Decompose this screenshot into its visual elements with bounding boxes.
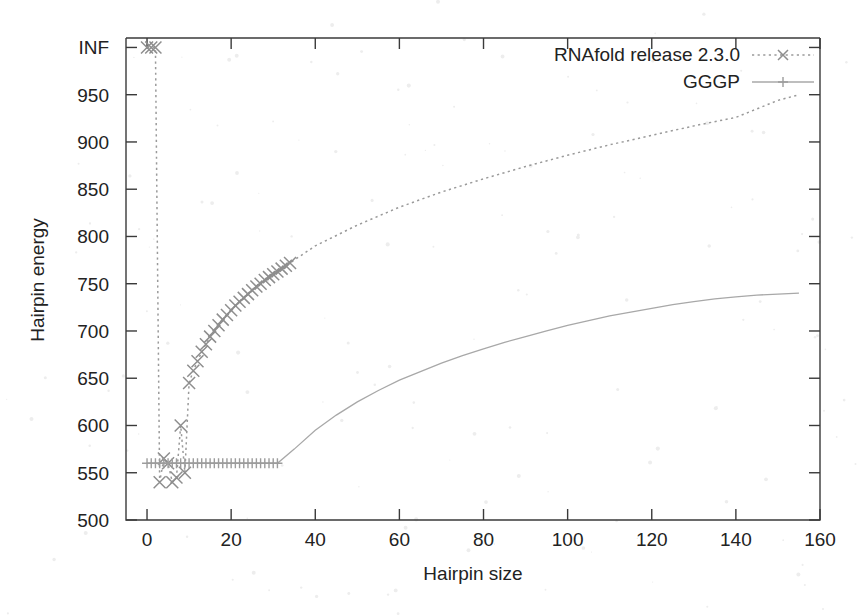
scan-speckle [387,593,389,595]
scan-speckle [44,376,47,379]
y-tick-label: 700 [77,321,109,342]
scan-speckle [843,399,846,402]
scan-speckle [442,165,444,167]
x-tick-label: 20 [221,529,242,550]
scan-speckle [625,298,629,302]
scan-speckle [388,365,392,369]
scan-speckle [626,101,628,103]
scan-speckle [816,334,819,337]
scan-speckle [696,102,698,104]
scan-speckle [656,447,660,451]
scan-speckle [89,222,91,224]
scan-speckle [467,548,471,552]
scan-speckle [232,579,234,581]
scan-speckle [397,88,399,90]
scan-speckle [802,564,804,566]
scan-speckle [801,233,803,235]
scan-speckle [236,351,240,355]
scan-speckle [315,595,318,598]
scan-speckle [290,235,292,237]
scan-speckle [138,228,140,230]
scan-speckle [6,399,7,400]
scan-speckle [759,300,762,303]
scan-speckle [75,251,77,253]
y-tick-label: 550 [77,463,109,484]
scan-speckle [217,125,219,127]
scan-speckle [654,33,656,35]
scan-speckle [517,289,519,291]
scan-speckle [517,474,521,478]
scan-speckle [347,341,350,344]
scan-speckle [742,319,744,321]
scan-speckle [811,218,814,221]
scan-speckle [324,317,325,318]
scan-speckle [200,201,203,204]
scan-speckle [782,539,784,541]
legend-label: RNAfold release 2.3.0 [554,44,740,65]
scan-speckle [330,23,334,27]
scan-speckle [259,230,260,231]
scan-speckle [149,246,150,247]
scan-speckle [407,84,411,88]
scan-speckle [591,133,594,136]
scan-speckle [436,0,440,4]
scan-speckle [153,238,155,240]
scan-speckle [473,338,474,339]
y-tick-label: 900 [77,132,109,153]
scan-speckle [371,199,374,202]
scan-speckle [180,304,181,305]
y-tick-label: 750 [77,274,109,295]
scan-speckle [360,50,363,53]
scan-speckle [751,130,754,133]
scan-speckle [822,608,824,610]
x-tick-label: 80 [473,529,494,550]
scan-speckle [298,139,299,140]
chart-container: 500550600650700750800850900950INF 020406… [0,0,861,616]
chart-background [0,0,861,616]
scan-speckle [624,172,626,174]
scan-speckle [845,61,847,63]
scan-speckle [78,163,80,165]
scan-speckle [425,150,426,151]
x-tick-label: 120 [636,529,668,550]
y-tick-label: 650 [77,368,109,389]
scan-speckle [210,201,214,205]
scan-speckle [347,592,350,595]
scan-speckle [252,571,256,575]
scan-speckle [639,177,641,179]
scan-speckle [814,336,817,339]
scan-speckle [501,214,503,216]
x-tick-label: 140 [720,529,752,550]
scan-speckle [489,143,491,145]
scan-speckle [706,606,708,608]
y-tick-label: 600 [77,415,109,436]
y-tick-label: 800 [77,226,109,247]
x-axis-title: Hairpin size [423,563,522,584]
scan-speckle [484,500,488,504]
scan-speckle [854,463,856,465]
scan-speckle [322,401,324,403]
scan-speckle [796,249,799,252]
scan-speckle [374,384,377,387]
scan-speckle [84,531,88,535]
scan-speckle [268,589,270,591]
scan-speckle [613,216,615,218]
scan-speckle [473,432,477,436]
scan-speckle [107,390,109,392]
scan-speckle [300,586,302,588]
scan-speckle [227,58,231,62]
scan-speckle [547,491,548,492]
scan-speckle [501,55,505,59]
scan-speckle [386,242,390,246]
scan-speckle [851,236,853,238]
y-tick-label: 950 [77,85,109,106]
scan-speckle [596,89,598,91]
scan-speckle [122,374,125,377]
scan-speckle [358,486,359,487]
scan-speckle [546,432,548,434]
scan-speckle [397,612,400,615]
scan-speckle [340,419,343,422]
scan-speckle [7,612,9,614]
scan-speckle [258,193,259,194]
legend-label: GGGP [683,71,740,92]
